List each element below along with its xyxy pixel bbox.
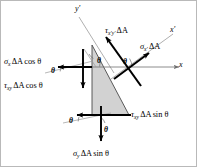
axis-label-x: x <box>179 61 183 69</box>
force-label-sigma-x-dA-cos-theta: σxΔAcos θ <box>4 58 41 67</box>
axis-label-y-prime: y′ <box>75 5 80 13</box>
force-label-tau-x-prime-y-prime-dA: τx′y′ΔA <box>105 27 128 36</box>
axis-label-x-prime: x′ <box>170 26 175 34</box>
angle-label-theta-bottom-left: θ <box>69 117 73 125</box>
force-label-tau-xy-dA-cos-theta: τxyΔAcos θ <box>4 82 43 91</box>
angle-label-theta-center: θ <box>97 57 101 65</box>
angle-label-theta-left: θ <box>51 67 55 75</box>
force-label-sigma-x-prime-dA: σx′ΔA <box>140 43 160 52</box>
force-label-tau-xy-dA-sin-theta: τxyΔAsin θ <box>131 111 168 120</box>
angle-label-theta-x-prime: θ <box>123 58 127 66</box>
force-label-sigma-y-dA-sin-theta: σyΔAsin θ <box>73 150 109 159</box>
angle-label-theta-bottom-mid: θ <box>104 126 108 134</box>
stress-wedge-figure: y′ x′ x σxΔAcos θ τxyΔAcos θ τxyΔAsin θ … <box>0 0 197 167</box>
